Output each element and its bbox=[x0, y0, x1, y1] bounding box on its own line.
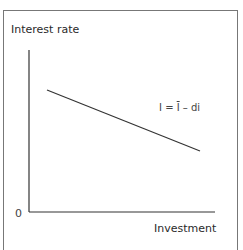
equation-lhs: I = bbox=[159, 102, 177, 113]
x-axis-label: Investment bbox=[154, 222, 216, 235]
equation-rhs: – di bbox=[180, 102, 200, 113]
investment-curve bbox=[47, 90, 200, 151]
y-axis-label: Interest rate bbox=[11, 23, 79, 36]
curve-equation-label: I = I – di bbox=[159, 102, 200, 113]
origin-label: 0 bbox=[15, 207, 22, 220]
